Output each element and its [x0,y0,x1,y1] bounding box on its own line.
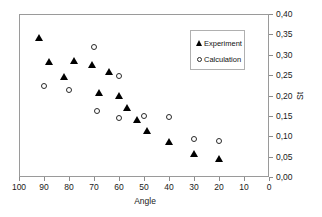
x-tick [44,177,45,181]
y-tick-label: 0,35 [276,29,293,39]
chart-legend: Experiment Calculation [190,30,245,70]
y-tick [269,34,273,35]
y-tick-label: 0,15 [276,111,293,121]
x-tick-label: 80 [64,182,73,192]
y-tick-label: 0,10 [276,131,293,141]
x-tick-label: 0 [267,182,272,192]
y-tick-label: 0,05 [276,152,293,162]
y-tick-label: 0,30 [276,50,293,60]
scatter-chart: 1009080706050403020100 0,000,050,100,150… [0,0,322,217]
filled-triangle-icon [194,40,204,46]
legend-item-experiment: Experiment [194,35,241,51]
y-tick [269,14,273,15]
y-tick [269,177,273,178]
x-tick [244,177,245,181]
x-tick [69,177,70,181]
y-tick [269,136,273,137]
y-tick [269,116,273,117]
x-tick [194,177,195,181]
y-tick-label: 0,20 [276,91,293,101]
y-tick-label: 0,25 [276,70,293,80]
x-tick-label: 60 [114,182,123,192]
y-axis-title: St [295,92,305,100]
x-tick [119,177,120,181]
x-tick [219,177,220,181]
x-tick [169,177,170,181]
x-tick [94,177,95,181]
x-tick-label: 100 [12,182,26,192]
legend-label-calculation: Calculation [204,55,241,64]
x-tick-label: 70 [89,182,98,192]
x-tick [19,177,20,181]
y-tick [269,55,273,56]
x-tick-label: 20 [214,182,223,192]
y-tick [269,157,273,158]
x-axis-title: Angle [0,196,290,206]
x-tick-label: 10 [239,182,248,192]
x-tick-label: 50 [139,182,148,192]
y-tick [269,75,273,76]
y-tick-label: 0,00 [276,172,293,182]
open-circle-icon [194,57,204,62]
y-tick-label: 0,40 [276,9,293,19]
legend-label-experiment: Experiment [204,39,242,48]
x-tick-label: 90 [39,182,48,192]
x-tick-label: 30 [189,182,198,192]
legend-item-calculation: Calculation [194,51,241,67]
x-tick-label: 40 [164,182,173,192]
x-tick [144,177,145,181]
y-tick [269,96,273,97]
